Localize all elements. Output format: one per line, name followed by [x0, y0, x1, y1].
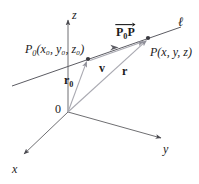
diagram-canvas — [0, 0, 199, 184]
line-ell-label: ℓ — [178, 15, 183, 28]
x-axis-label: x — [12, 163, 17, 175]
vector-r0-label: r0 — [64, 74, 73, 90]
line-vector-diagram: z ℓ P0(x₀, y₀, z₀) P(x, y, z) P0P v r0 r… — [0, 0, 199, 184]
vector-v-label: v — [99, 62, 105, 74]
x-axis — [24, 112, 68, 154]
vector-p0p-overarrow-group: P0P — [116, 26, 135, 42]
y-axis — [68, 112, 161, 138]
y-axis-label: y — [163, 143, 168, 155]
vector-p0p-label: P0P — [116, 26, 135, 42]
point-p0-marker — [86, 57, 90, 61]
vector-r0-subscript: 0 — [69, 80, 73, 89]
vector-arrow-icon — [115, 22, 136, 27]
point-p-coordinates: (x, y, z) — [157, 45, 192, 59]
z-axis-label: z — [72, 9, 77, 21]
origin-label: 0 — [55, 103, 61, 115]
point-p0-coordinates: (x₀, y₀, z₀) — [36, 42, 84, 56]
point-p0-label: P0(x₀, y₀, z₀) — [25, 43, 84, 59]
vector-p0p-second-letter: P — [127, 25, 134, 39]
point-p-label: P(x, y, z) — [150, 46, 192, 58]
point-p-marker — [146, 36, 150, 40]
vector-r-label: r — [122, 65, 127, 77]
